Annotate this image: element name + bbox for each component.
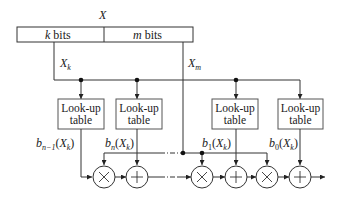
multiply-icon bbox=[262, 172, 272, 182]
junction-dot bbox=[234, 78, 239, 83]
junction-dot bbox=[79, 78, 84, 83]
lut2-output-label: bn(Xk) bbox=[105, 137, 134, 149]
lut3-output-label: b1(Xk) bbox=[202, 137, 231, 149]
lut1-output-label: bn−1(Xk) bbox=[36, 137, 74, 149]
junction-dot bbox=[181, 151, 186, 156]
junction-dot bbox=[200, 151, 205, 156]
multiply-icon bbox=[99, 172, 109, 182]
plus-icon bbox=[294, 171, 306, 183]
input-label: X bbox=[99, 9, 106, 21]
input-register bbox=[17, 27, 193, 42]
xk-label: Xk bbox=[60, 57, 71, 69]
lut1-text: Look-uptable bbox=[58, 102, 104, 126]
m-bits-label: m bits bbox=[133, 29, 162, 41]
multiply-icon bbox=[197, 172, 207, 182]
lut3-text: Look-uptable bbox=[212, 102, 258, 126]
lut4-text: Look-uptable bbox=[278, 102, 323, 126]
junction-dot bbox=[135, 78, 140, 83]
k-bits-label: k bits bbox=[45, 29, 71, 41]
lut4-output-label: b0(Xk) bbox=[269, 137, 298, 149]
lut2-text: Look-uptable bbox=[116, 102, 162, 126]
xm-label: Xm bbox=[188, 57, 201, 69]
plus-icon bbox=[131, 171, 143, 183]
lut1-output bbox=[81, 129, 92, 177]
plus-icon bbox=[230, 171, 242, 183]
